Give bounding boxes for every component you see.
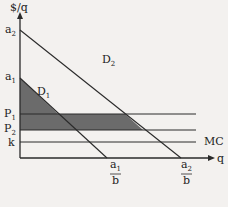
demand-diagram: $/q q a2 a1 P1 P2 k D2 D1 MC a1 b a2 b <box>0 0 228 207</box>
d2-label: D2 <box>102 53 115 68</box>
k-label: k <box>8 136 15 149</box>
mc-label: MC <box>204 135 224 148</box>
a1-over-b-numerator: a1 <box>110 158 121 173</box>
a1-over-b-denominator: b <box>112 174 119 187</box>
d1-label: D1 <box>37 85 50 100</box>
a1-label: a1 <box>5 70 16 85</box>
a2-over-b-denominator: b <box>183 174 190 187</box>
a2-over-b-numerator: a2 <box>181 158 192 173</box>
x-axis-label: q <box>217 152 224 165</box>
p1-label: P1 <box>4 107 16 122</box>
y-axis-label: $/q <box>10 1 28 14</box>
shaded-band-region <box>20 114 143 130</box>
p2-label: P2 <box>4 122 16 137</box>
a2-label: a2 <box>5 23 16 38</box>
x-axis-arrow-icon <box>208 155 215 161</box>
